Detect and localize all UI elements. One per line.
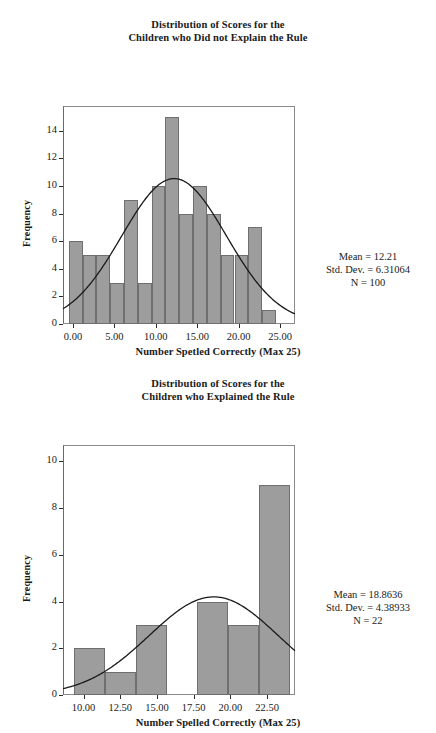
- histogram-figure-top: Distribution of Scores for the Children …: [0, 0, 436, 372]
- normal-curve-bottom: [0, 403, 436, 733]
- stat-stddev-bottom: Std. Dev. = 4.38933: [300, 601, 436, 614]
- histogram-figure-bottom: Distribution of Scores for the Children …: [0, 360, 436, 709]
- statistics-annotation-top: Mean = 12.21 Std. Dev. = 6.31064 N = 100: [300, 250, 436, 289]
- x-axis-title-bottom: Number Spelled Correctly (Max 25): [0, 717, 436, 728]
- chart-title-top-line1: Distribution of Scores for the: [68, 18, 368, 31]
- chart-title-top-line2: Children who Did not Explain the Rule: [68, 31, 368, 44]
- stat-mean-top: Mean = 12.21: [300, 250, 436, 263]
- x-axis-title-top: Number Spetled Correctly (Max 25): [0, 346, 436, 357]
- stat-mean-bottom: Mean = 18.8636: [300, 588, 436, 601]
- chart-title-bottom-line1: Distribution of Scores for the: [68, 377, 368, 390]
- chart-title-bottom-line2: Children who Explained the Rule: [68, 390, 368, 403]
- stat-n-top: N = 100: [300, 276, 436, 289]
- stat-stddev-top: Std. Dev. = 6.31064: [300, 263, 436, 276]
- chart-title-bottom: Distribution of Scores for the Children …: [68, 360, 368, 403]
- statistics-annotation-bottom: Mean = 18.8636 Std. Dev. = 4.38933 N = 2…: [300, 588, 436, 627]
- stat-n-bottom: N = 22: [300, 614, 436, 627]
- chart-title-top: Distribution of Scores for the Children …: [68, 0, 368, 44]
